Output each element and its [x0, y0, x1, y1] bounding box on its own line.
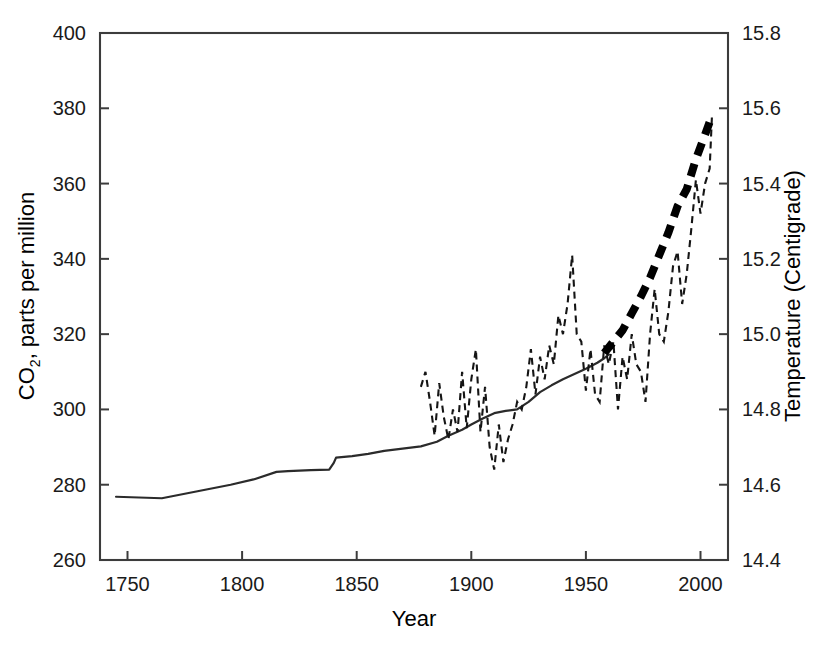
y2-tick-label: 15.8: [742, 22, 781, 44]
y2-tick-label: 15.6: [742, 97, 781, 119]
x-tick-label: 1800: [220, 573, 265, 595]
temperature-dashed-series: [421, 116, 712, 470]
y2-tick-label: 15.2: [742, 248, 781, 270]
y-tick-label: 380: [53, 97, 86, 119]
y2-tick-label: 14.4: [742, 549, 781, 571]
plot-frame: [100, 33, 728, 560]
x-tick-label: 1950: [564, 573, 609, 595]
y2-tick-label: 15.4: [742, 173, 781, 195]
x-axis-ticks: 175018001850190019502000: [105, 551, 722, 595]
x-tick-label: 1750: [105, 573, 150, 595]
y-axis-left-title: CO2, parts per million: [14, 192, 43, 400]
y-tick-label: 260: [53, 549, 86, 571]
y2-tick-label: 15.0: [742, 323, 781, 345]
co2-temperature-chart: 175018001850190019502000 260280300320340…: [0, 0, 823, 657]
y-tick-label: 320: [53, 323, 86, 345]
y2-tick-label: 14.6: [742, 474, 781, 496]
y-axis-right-title: Temperature (Centigrade): [780, 170, 805, 422]
y-tick-label: 280: [53, 474, 86, 496]
x-tick-label: 1850: [334, 573, 379, 595]
x-tick-label: 2000: [678, 573, 723, 595]
y-tick-label: 360: [53, 173, 86, 195]
y-tick-label: 300: [53, 398, 86, 420]
x-axis-title: Year: [392, 606, 436, 631]
y-tick-label: 400: [53, 22, 86, 44]
y2-tick-label: 14.8: [742, 398, 781, 420]
chart-canvas: 175018001850190019502000 260280300320340…: [0, 0, 823, 657]
x-tick-label: 1900: [449, 573, 494, 595]
y-tick-label: 340: [53, 248, 86, 270]
co2-solid-series: [116, 354, 609, 498]
